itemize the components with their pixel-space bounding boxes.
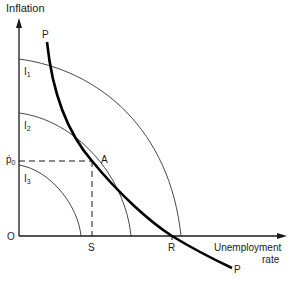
x-axis-arrow-icon: [277, 233, 287, 239]
origin-label: O: [7, 232, 15, 242]
y-axis-arrow-icon: [16, 18, 22, 28]
indifference-curve-i2: [19, 113, 131, 236]
point-a-label: A: [101, 155, 108, 165]
phillips-curve: [47, 42, 232, 268]
x-axis-label-line1: Unemployment: [214, 243, 281, 253]
r-label: R: [168, 243, 175, 253]
i2-label: I2: [24, 121, 31, 132]
y-axis-label: Inflation: [6, 3, 45, 14]
x-axis-label-line2: rate: [262, 255, 279, 265]
i3-label: I3: [24, 174, 31, 185]
indifference-curve-i1: [19, 59, 181, 236]
p0-label: ṗ0: [6, 155, 15, 166]
p-curve-bottom-label: P: [234, 265, 241, 275]
s-label: S: [88, 243, 95, 253]
p-curve-top-label: P: [42, 30, 49, 40]
i1-label: I1: [24, 67, 31, 78]
